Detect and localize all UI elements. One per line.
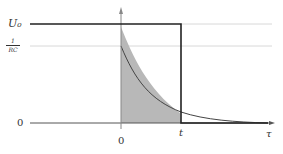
tau-label: τ [266,129,272,139]
inv-rc-label: 1 RC [6,38,20,53]
t-label: t [179,128,183,138]
vertical-axis-arrow-icon [119,7,123,14]
tau-axis-arrow-icon [269,121,275,125]
x-zero-label: 0 [118,136,124,146]
y-zero-label: 0 [17,118,23,128]
u0-label: U₀ [8,18,22,29]
diagram-canvas [0,0,283,154]
inv-rc-denominator: RC [6,46,20,53]
inv-rc-numerator: 1 [6,38,20,46]
